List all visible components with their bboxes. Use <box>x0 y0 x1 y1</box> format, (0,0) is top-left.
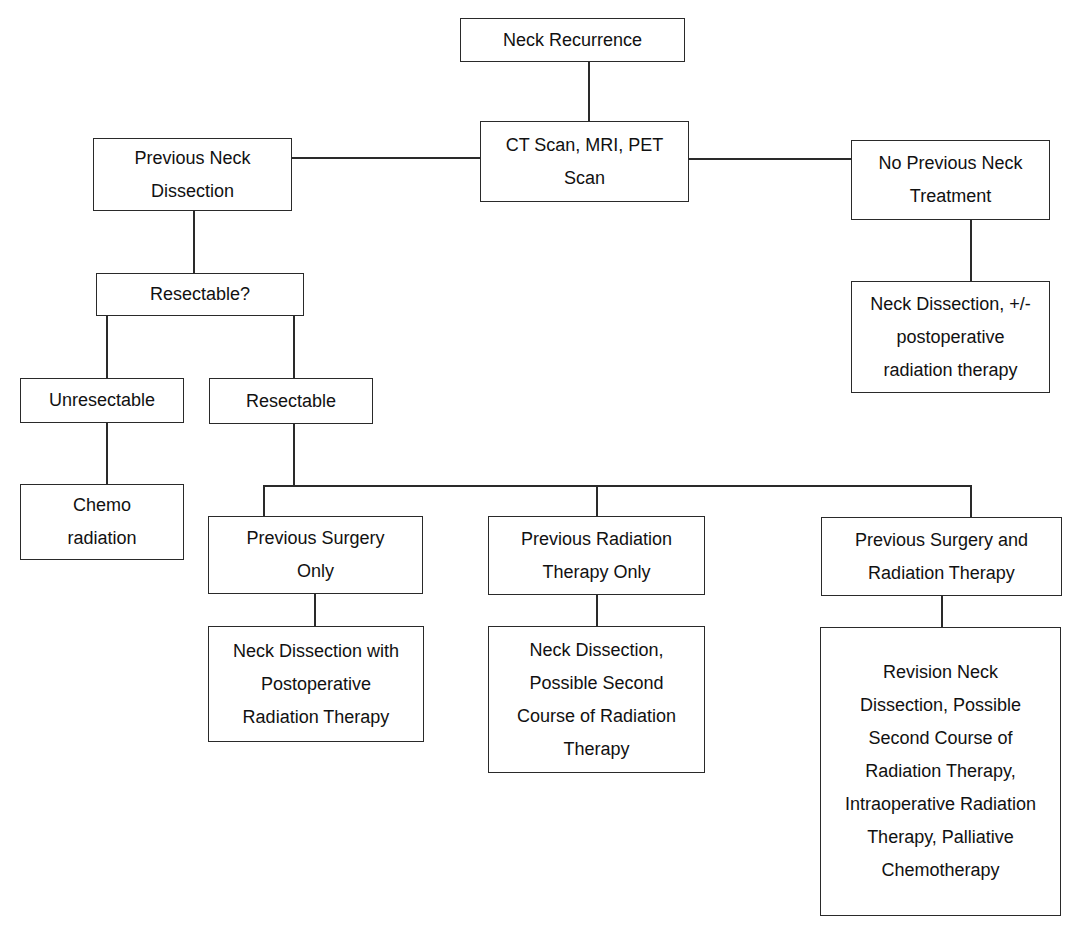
edge-previous-dissection-resectable-q <box>193 211 195 273</box>
node-imaging: CT Scan, MRI, PET Scan <box>480 121 689 202</box>
node-label: Chemo radiation <box>55 489 149 555</box>
node-label: Neck Recurrence <box>503 24 642 57</box>
edge-bus-prev-rt <box>596 485 598 516</box>
node-previous-neck-dissection: Previous Neck Dissection <box>93 138 292 211</box>
node-resectable-question: Resectable? <box>96 273 304 316</box>
edge-resectable-q-unresectable <box>106 316 108 378</box>
node-label: Resectable? <box>150 278 250 311</box>
node-prev-surgery-rt: Previous Surgery and Radiation Therapy <box>821 517 1062 596</box>
node-label: Resectable <box>246 385 336 418</box>
edge-resectable-bus-stem <box>293 424 295 486</box>
edge-prev-rt-outcome <box>596 595 598 626</box>
node-prev-surgery-only-outcome: Neck Dissection with Postoperative Radia… <box>208 626 424 742</box>
edge-imaging-no-previous <box>689 158 851 160</box>
node-label: Unresectable <box>49 384 155 417</box>
edge-unresectable-chemoradiation <box>106 423 108 484</box>
edge-prev-surgery-rt-outcome <box>941 596 943 627</box>
node-label: No Previous Neck Treatment <box>866 147 1035 213</box>
edge-bus-prev-surgery <box>263 485 265 516</box>
edge-prev-surgery-outcome <box>314 594 316 626</box>
node-unresectable: Unresectable <box>20 378 184 423</box>
edge-no-previous-outcome <box>970 220 972 281</box>
node-prev-surgery-rt-outcome: Revision Neck Dissection, Possible Secon… <box>820 627 1061 916</box>
node-label: Neck Dissection, +/- postoperative radia… <box>862 288 1039 387</box>
node-label: Previous Neck Dissection <box>124 142 261 208</box>
node-label: Previous Surgery Only <box>233 522 398 588</box>
node-label: Neck Dissection with Postoperative Radia… <box>221 635 411 734</box>
edge-recurrence-imaging <box>588 62 590 121</box>
edge-imaging-previous-dissection <box>292 157 480 159</box>
edge-bus-prev-surgery-rt <box>970 485 972 517</box>
node-label: CT Scan, MRI, PET Scan <box>495 129 674 195</box>
node-resectable: Resectable <box>209 378 373 424</box>
node-no-previous-treatment: No Previous Neck Treatment <box>851 140 1050 220</box>
edge-resectable-bus <box>263 485 971 487</box>
node-prev-rt-only: Previous Radiation Therapy Only <box>488 516 705 595</box>
edge-resectable-q-resectable <box>293 316 295 378</box>
node-no-previous-outcome: Neck Dissection, +/- postoperative radia… <box>851 281 1050 393</box>
node-label: Previous Radiation Therapy Only <box>509 523 684 589</box>
node-prev-surgery-only: Previous Surgery Only <box>208 516 423 594</box>
node-chemoradiation: Chemo radiation <box>20 484 184 560</box>
node-prev-rt-only-outcome: Neck Dissection, Possible Second Course … <box>488 626 705 773</box>
node-label: Revision Neck Dissection, Possible Secon… <box>841 656 1040 887</box>
node-neck-recurrence: Neck Recurrence <box>460 18 685 62</box>
node-label: Previous Surgery and Radiation Therapy <box>836 524 1047 590</box>
node-label: Neck Dissection, Possible Second Course … <box>505 634 688 766</box>
